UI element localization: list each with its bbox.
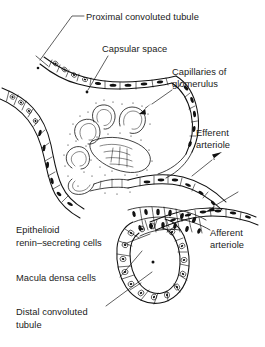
label-capillaries-of-glomerulus-line1: Capillaries of — [172, 67, 227, 77]
label-distal-convoluted-tubule-line1: Distal convoluted — [16, 307, 88, 317]
label-efferent-arteriole-line1: Efferent — [196, 128, 229, 138]
proximal-tubule-descending-limb — [0, 88, 84, 218]
label-proximal-convoluted-tubule: Proximal convoluted tubule — [86, 12, 199, 22]
efferent-flow-arrow — [192, 152, 222, 176]
leader-line-capillaries-glomerulus — [139, 90, 172, 115]
label-afferent-arteriole-line2: arteriole — [210, 240, 244, 250]
renal-corpuscle-diagram: Proximal convoluted tubule Capsular spac… — [0, 0, 265, 347]
label-macula-densa-cells: Macula densa cells — [16, 273, 96, 283]
label-capsular-space: Capsular space — [102, 44, 167, 54]
diagram-canvas: Proximal convoluted tubule Capsular spac… — [0, 0, 265, 347]
capsule-neck — [158, 152, 192, 178]
label-capillaries-of-glomerulus-line2: glomerulus — [172, 79, 218, 89]
label-distal-convoluted-tubule-line2: tubule — [16, 320, 42, 330]
efferent-arteriole — [128, 152, 226, 210]
label-epithelioid-line2: renin–secreting cells — [16, 238, 102, 248]
proximal-convoluted-tubule — [40, 57, 176, 90]
glomerular-capillary-tuft — [63, 99, 152, 194]
distal-convoluted-tubule — [117, 219, 189, 304]
leader-line-proximal-tubule — [36, 16, 84, 69]
distal-lumen-dot — [152, 261, 155, 264]
label-afferent-arteriole-line1: Afferent — [210, 228, 243, 238]
label-efferent-arteriole-line2: arteriole — [196, 140, 230, 150]
label-epithelioid-line1: Epithelioid — [16, 225, 59, 235]
